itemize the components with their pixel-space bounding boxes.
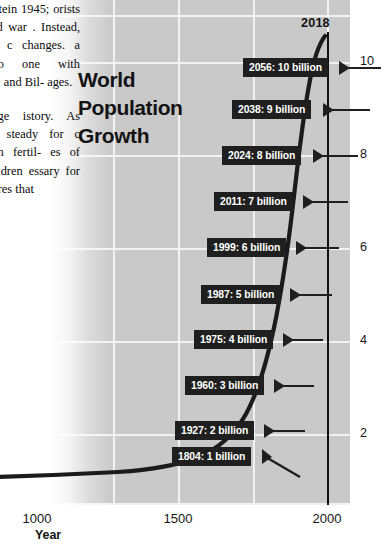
annotation-arrow-head [264, 424, 275, 438]
annotation-label: 1999: 6 billion [207, 238, 286, 257]
annotation-arrow-head [323, 103, 334, 117]
annotation-arrow-head [274, 379, 285, 393]
x-tick-1500: 1500 [148, 511, 208, 526]
y-tick-4: 4 [360, 333, 367, 347]
annotation-leader-line [299, 294, 332, 296]
article-paragraph: the stage istory. As Population steady f… [0, 107, 80, 198]
y-tick-10: 10 [360, 54, 374, 68]
annotation-leader-line [262, 447, 308, 483]
annotation-label: 1975: 4 billion [194, 330, 273, 349]
annotation-leader-line [312, 201, 348, 203]
x-tick-2000: 2000 [297, 511, 357, 526]
annotation-leader-line [332, 109, 370, 111]
annotation-leader-line [273, 430, 305, 432]
annotation-arrow-head [303, 195, 314, 209]
infographic-page: 2018 World Population Growth 2056: 10 bi… [0, 0, 386, 544]
x-axis-title: Year [35, 528, 61, 542]
x-tick-1000: 1000 [7, 511, 67, 526]
annotation-leader-line [305, 247, 339, 249]
marker-label-2018: 2018 [301, 16, 330, 30]
article-text-column: when both tein 1945; orists here se and … [0, 0, 80, 410]
annotation-leader-line [322, 155, 358, 157]
article-paragraph: when both tein 1945; orists here se and … [0, 0, 80, 91]
annotation-label: 1804: 1 billion [172, 447, 251, 466]
annotation-label: 2038: 9 billion [232, 100, 311, 119]
annotation-arrow-head [296, 241, 307, 255]
annotation-label: 1927: 2 billion [175, 421, 254, 440]
y-tick-2: 2 [360, 426, 367, 440]
chart-title: World Population Growth [78, 66, 208, 150]
annotation-arrow-head [290, 288, 301, 302]
annotation-leader-line [292, 339, 323, 341]
annotation-label: 2011: 7 billion [214, 192, 293, 211]
annotation-arrow-head [339, 61, 350, 75]
annotation-arrow-head [313, 149, 324, 163]
annotation-label: 2024: 8 billion [222, 146, 301, 165]
annotation-label: 2056: 10 billion [243, 58, 328, 77]
annotation-leader-line [283, 385, 314, 387]
y-tick-6: 6 [360, 240, 367, 254]
annotation-arrow-head [283, 333, 294, 347]
y-tick-8: 8 [360, 147, 367, 161]
annotation-label: 1960: 3 billion [185, 376, 264, 395]
annotation-label: 1987: 5 billion [201, 285, 280, 304]
